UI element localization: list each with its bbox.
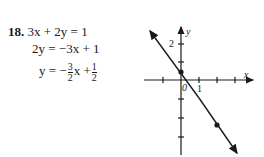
origin-label: 0 [182, 83, 187, 93]
graph-line [150, 31, 199, 98]
x-axis-label: x [244, 70, 248, 80]
x-tick-label-1: 1 [197, 84, 202, 94]
point-y-intercept [178, 69, 183, 74]
point-2-neg2.5 [214, 122, 219, 127]
graph [0, 0, 264, 157]
y-tick-label-2: 2 [169, 39, 174, 49]
y-axis-label: y [186, 27, 190, 37]
